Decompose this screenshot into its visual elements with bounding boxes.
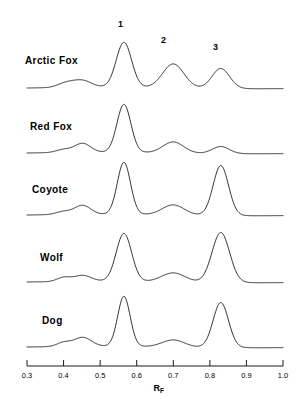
x-tick-label-0.3: 0.3 [22, 372, 32, 380]
x-axis-title: RF [153, 384, 163, 393]
densitometer-trace-figure: 1 2 3 Arctic Fox Red Fox Coyote Wolf Dog… [0, 0, 298, 399]
x-axis-line [27, 360, 283, 366]
x-tick-label-0.4: 0.4 [58, 372, 68, 380]
x-axis-title-subscript: F [160, 387, 164, 394]
peak-label-3: 3 [213, 43, 218, 52]
peak-label-2: 2 [161, 36, 166, 45]
x-tick-label-0.5: 0.5 [95, 372, 105, 380]
series-label-dog: Dog [42, 316, 63, 326]
series-label-coyote: Coyote [32, 185, 68, 195]
x-tick-label-1.0: 1.0 [278, 372, 288, 380]
x-tick-label-0.8: 0.8 [205, 372, 215, 380]
x-tick-label-0.9: 0.9 [241, 372, 251, 380]
trace-dog [27, 296, 283, 347]
x-tick-label-0.7: 0.7 [168, 372, 178, 380]
series-label-wolf: Wolf [40, 253, 63, 263]
x-axis-title-main: R [153, 383, 160, 393]
x-tick-label-0.6: 0.6 [131, 372, 141, 380]
trace-wolf [27, 233, 283, 283]
series-label-arctic-fox: Arctic Fox [25, 56, 78, 66]
peak-label-1: 1 [118, 20, 123, 29]
series-label-red-fox: Red Fox [30, 122, 72, 132]
